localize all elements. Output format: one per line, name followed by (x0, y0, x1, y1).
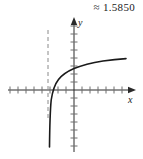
curve-path (50, 59, 127, 147)
x-axis-label: x (127, 94, 133, 105)
y-axis (71, 17, 77, 152)
coordinate-plane: x y (0, 0, 143, 159)
graph-figure: ≈ 1.5850 (0, 0, 143, 159)
x-axis (8, 87, 136, 93)
y-axis-label: y (77, 17, 83, 28)
